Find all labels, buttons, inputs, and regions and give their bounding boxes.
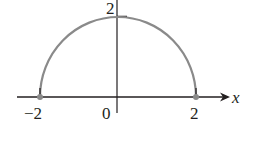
endpoint-right <box>193 94 199 100</box>
x-tick-label-0: 0 <box>102 104 111 123</box>
semicircle-chart: 2 −2 0 2 x <box>0 0 267 154</box>
x-tick-label-2: 2 <box>190 104 199 123</box>
semicircle-curve <box>40 17 196 97</box>
y-tick-label-2: 2 <box>106 0 115 18</box>
endpoint-left <box>37 94 43 100</box>
x-tick-label-neg2: −2 <box>24 104 42 123</box>
x-axis-label: x <box>231 88 240 107</box>
